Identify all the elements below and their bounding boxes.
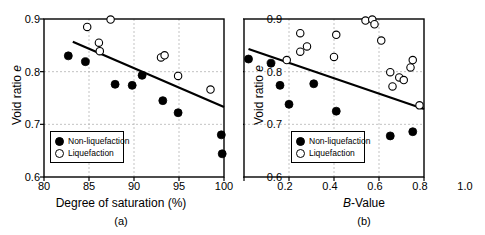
- panel-a-xtick-95: 95: [165, 181, 193, 192]
- filled-circle-icon: [296, 137, 305, 146]
- panel-b-xaxis-symbol-B: B: [343, 196, 351, 210]
- panel-a-xtick-85: 85: [75, 181, 103, 192]
- panel-a-xtick-80: 80: [30, 181, 58, 192]
- panel-b-xtick-1.0: 1.0: [451, 181, 479, 192]
- panel-b-legend-row-non-liquefaction: Non-liquefaction: [296, 135, 359, 147]
- panel-b-xtick-0.4: 0.4: [316, 181, 344, 192]
- panel-a-xaxis-title-text: Degree of saturation (%): [56, 196, 187, 210]
- panel-b-legend: Non-liquefaction Liquefaction: [291, 131, 365, 163]
- panel-b-ytick-0.9: 0.9: [246, 14, 282, 25]
- panel-b-legend-label-liquefaction: Liquefaction: [309, 149, 355, 158]
- panel-b-caption: (b): [243, 215, 485, 227]
- panel-b-xaxis-title: B-Value: [243, 196, 485, 210]
- panel-a-degree-of-saturation: 0.9 0.8 0.7 0.6 80 85 90 95 100 Degree o…: [0, 0, 242, 235]
- panel-b-xaxis-title-suffix: -Value: [351, 196, 385, 210]
- panel-a-ytick-0.9: 0.9: [4, 14, 40, 25]
- panel-a-yaxis-title-text: Void ratio: [10, 72, 24, 125]
- panel-a-legend-label-liquefaction: Liquefaction: [68, 149, 114, 158]
- panel-a-legend: Non-liquefaction Liquefaction: [50, 131, 124, 163]
- panel-b-xtick-0.6: 0.6: [361, 181, 389, 192]
- figure-void-ratio-scatter-panels: 0.9 0.8 0.7 0.6 80 85 90 95 100 Degree o…: [0, 0, 485, 235]
- panel-b-legend-row-liquefaction: Liquefaction: [296, 147, 359, 159]
- panel-a-legend-label-non-liquefaction: Non-liquefaction: [68, 137, 129, 146]
- panel-b-yaxis-symbol-e: e: [252, 65, 266, 72]
- panel-a-legend-row-liquefaction: Liquefaction: [55, 147, 118, 159]
- panel-a-caption: (a): [0, 215, 242, 227]
- panel-b-legend-label-non-liquefaction: Non-liquefaction: [309, 137, 370, 146]
- panel-a-legend-row-non-liquefaction: Non-liquefaction: [55, 135, 118, 147]
- panel-a-xaxis-title: Degree of saturation (%): [0, 196, 242, 210]
- panel-a-xtick-100: 100: [210, 181, 238, 192]
- panel-a-yaxis-title: Void ratio e: [10, 65, 24, 125]
- panel-a-yaxis-symbol-e: e: [10, 65, 24, 72]
- panel-a-xtick-90: 90: [120, 181, 148, 192]
- panel-b-yaxis-title: Void ratio e: [252, 65, 266, 125]
- panel-b-xtick-0.8: 0.8: [406, 181, 434, 192]
- open-circle-icon: [296, 149, 305, 158]
- panel-b-b-value: 0.9 0.8 0.7 0.6 0.2 0.4 0.6 0.8 1.0 B-Va…: [243, 0, 485, 235]
- panel-b-yaxis-title-text: Void ratio: [252, 72, 266, 125]
- panel-b-xtick-0.2: 0.2: [271, 181, 299, 192]
- open-circle-icon: [55, 149, 64, 158]
- filled-circle-icon: [55, 137, 64, 146]
